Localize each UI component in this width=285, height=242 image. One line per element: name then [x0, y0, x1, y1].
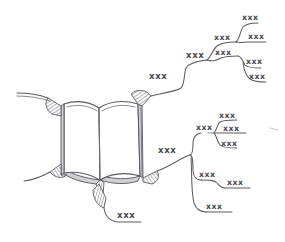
branch-lower-right-stem-line [157, 155, 190, 171]
root-wedge-right [143, 171, 158, 184]
node-lower-c-label: xxx [206, 202, 223, 211]
node-lower-a: xxx xxx xxx xxx [196, 111, 246, 148]
leaf-upper-3-label: xxx [246, 57, 263, 66]
book-right-page [99, 102, 140, 180]
node-upper-a-label: xxx [186, 50, 204, 60]
branch-lower-left [24, 172, 50, 181]
node-upper-c-label: xxx [215, 48, 232, 57]
node-lower-c: xxx [206, 202, 232, 212]
node-lower-a-label: xxx [196, 123, 213, 132]
node-upper-b-label: xxx [214, 33, 231, 42]
node-upper-b: xxx xxx xxx [214, 13, 266, 42]
node-upper-c: xxx xxx xxx [215, 48, 266, 82]
leaf-lower-a1-label: xxx [219, 111, 236, 120]
branch-lower-right-stem-label: xxx [158, 145, 176, 155]
root-wedge-bottom [93, 184, 106, 208]
mind-map-drawing: xxx xxx xxx xxx xxx xxx xxx xxx xxx xxx [0, 0, 285, 242]
branch-upper-right-stem: xxx [149, 60, 207, 96]
book-left-cover [61, 104, 64, 175]
stray-mark [270, 128, 278, 130]
branch-lower-left-line [24, 172, 50, 181]
center-open-book [61, 102, 143, 199]
lower-right-trunk [190, 133, 201, 155]
leaf-lower-a2-label: xxx [223, 124, 240, 133]
node-lower-b: xxx xxx [199, 170, 250, 188]
branch-bottom-label: xxx [117, 210, 135, 220]
leaf-upper-4-label: xxx [249, 72, 266, 81]
book-left-page [64, 102, 100, 180]
diagram-canvas: xxx xxx xxx xxx xxx xxx xxx xxx xxx xxx [0, 0, 285, 242]
leaf-lower-a3-label: xxx [221, 139, 238, 148]
branch-upper-left [17, 93, 50, 101]
node-lower-b-label: xxx [199, 170, 216, 179]
branch-upper-right-stem-label: xxx [149, 71, 167, 81]
leaf-upper-2-label: xxx [248, 32, 265, 41]
leaf-upper-1-label: xxx [242, 13, 259, 22]
leaf-lower-b1-label: xxx [227, 178, 244, 187]
branch-bottom: xxx [104, 208, 141, 222]
